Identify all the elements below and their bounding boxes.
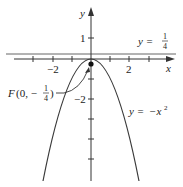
x-tick-label-2: 2 [126, 63, 132, 75]
svg-text:1: 1 [44, 84, 48, 93]
svg-text:(0, −: (0, − [16, 87, 37, 100]
svg-text:F: F [7, 87, 15, 99]
focus-point [88, 61, 93, 66]
y-tick-label-1: 1 [80, 32, 86, 44]
leader-arrow-icon [85, 67, 90, 73]
svg-text:): ) [50, 87, 54, 100]
svg-text:y =: y = [137, 35, 153, 47]
svg-text:1: 1 [163, 32, 167, 41]
focus-label: F (0, − 1 4 ) [7, 84, 54, 103]
x-tick-label-neg2: −2 [47, 63, 59, 75]
x-axis-label: x [165, 62, 171, 74]
y-axis-label: y [79, 7, 85, 19]
svg-text:4: 4 [44, 94, 48, 103]
y-tick-label-neg2: −2 [74, 93, 86, 105]
focus-leader-line [56, 70, 88, 93]
svg-text:4: 4 [163, 42, 167, 51]
svg-text:y =: y = [128, 105, 144, 117]
svg-text:−x: −x [149, 105, 161, 117]
parabola-figure: y x −2 2 1 −2 y = 1 4 F (0, − 1 4 ) y = … [0, 0, 183, 187]
directrix-label: y = 1 4 [137, 32, 168, 51]
svg-text:2: 2 [164, 104, 168, 112]
parabola-label: y = −x 2 [128, 104, 168, 117]
y-axis-arrow-icon [88, 7, 94, 16]
